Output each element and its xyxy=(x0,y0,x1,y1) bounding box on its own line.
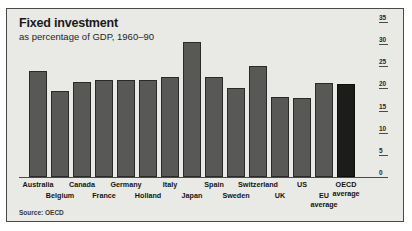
bar-belgium[interactable] xyxy=(51,91,69,177)
tick-label: 30 xyxy=(379,36,386,43)
tick-label: 10 xyxy=(379,125,386,132)
x-axis-label-switzerland: Switzerland xyxy=(238,180,278,189)
tick-label: 25 xyxy=(379,58,386,65)
tick-mark xyxy=(379,111,388,112)
y-axis: 05101520253035 xyxy=(379,22,403,177)
x-axis-label-line2: average xyxy=(332,189,359,198)
x-axis-label-japan: Japan xyxy=(182,191,203,200)
bar-uk[interactable] xyxy=(271,97,289,177)
bar-oecd-average[interactable] xyxy=(337,84,355,177)
bar-sweden[interactable] xyxy=(227,88,245,177)
bar-france[interactable] xyxy=(95,80,113,177)
x-axis-label-spain: Spain xyxy=(204,180,224,189)
bar-us[interactable] xyxy=(293,98,311,177)
x-axis-label-germany: Germany xyxy=(110,180,141,189)
bar-switzerland[interactable] xyxy=(249,66,267,177)
tick-label: 20 xyxy=(379,80,386,87)
tick-mark xyxy=(379,66,388,67)
x-axis-label-sweden: Sweden xyxy=(222,191,249,200)
x-axis-label-australia: Australia xyxy=(23,180,54,189)
x-axis-label-belgium: Belgium xyxy=(46,191,74,200)
bar-japan[interactable] xyxy=(183,42,201,177)
tick-mark xyxy=(379,155,388,156)
tick-mark xyxy=(379,177,388,178)
x-axis-label-italy: Italy xyxy=(163,180,177,189)
chart-figure: Fixed investment as percentage of GDP, 1… xyxy=(6,8,404,222)
bar-germany[interactable] xyxy=(117,80,135,177)
x-axis-label-oecd-average: OECDaverage xyxy=(332,180,359,198)
tick-mark xyxy=(379,22,388,23)
bar-eu-average[interactable] xyxy=(315,83,333,177)
tick-label: 15 xyxy=(379,103,386,110)
plot-area xyxy=(27,22,357,177)
bar-canada[interactable] xyxy=(73,82,91,177)
x-axis-label-canada: Canada xyxy=(69,180,95,189)
bar-holland[interactable] xyxy=(139,80,157,177)
source-note: Source: OECD xyxy=(19,209,64,216)
x-axis-label-france: France xyxy=(92,191,116,200)
tick-mark xyxy=(379,133,388,134)
x-axis-label-uk: UK xyxy=(275,191,285,200)
x-axis-label-holland: Holland xyxy=(135,191,161,200)
tick-mark xyxy=(379,44,388,45)
tick-label: 35 xyxy=(379,14,386,21)
x-axis-label-line2: average xyxy=(310,200,337,209)
tick-label: 0 xyxy=(379,169,383,176)
bar-italy[interactable] xyxy=(161,77,179,177)
tick-mark xyxy=(379,88,388,89)
bar-australia[interactable] xyxy=(29,71,47,177)
bar-spain[interactable] xyxy=(205,77,223,177)
tick-label: 5 xyxy=(379,147,383,154)
x-axis-baseline xyxy=(19,177,379,178)
x-axis-label-us: US xyxy=(297,180,307,189)
